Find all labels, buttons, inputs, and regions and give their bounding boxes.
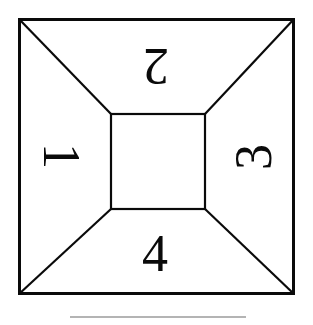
face-label-right: 3 (229, 125, 279, 189)
face-label-top: 2 (131, 28, 181, 92)
face-label-left: 1 (36, 124, 86, 188)
caption-rule-divider (70, 316, 246, 318)
figure-root: 2 1 3 4 (0, 0, 313, 325)
face-label-bottom: 4 (130, 228, 180, 292)
